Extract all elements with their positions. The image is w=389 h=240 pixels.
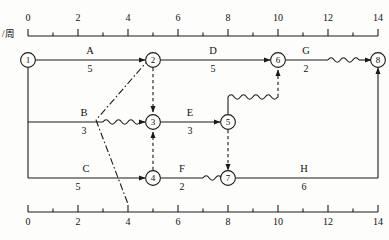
float-wavy-5-6: [228, 95, 278, 99]
activity-duration-E: 3: [188, 125, 193, 136]
activity-duration-D: 5: [211, 63, 216, 74]
top-axis-tick-2: 2: [76, 12, 81, 23]
activity-duration-F: 2: [180, 181, 185, 192]
activity-arrow-B: [28, 120, 145, 124]
activity-label-H: H: [300, 163, 308, 174]
critical-path-marker: [96, 58, 150, 204]
bottom-axis-tick-4: 4: [126, 216, 131, 227]
top-axis-tick-0: 0: [26, 12, 31, 23]
node-label-2: 2: [151, 55, 156, 65]
float-wavy-B: [103, 120, 140, 124]
activity-label-F: F: [179, 163, 185, 174]
bottom-axis-tick-2: 2: [76, 216, 81, 227]
top-axis-tick-8: 8: [226, 12, 231, 23]
top-axis-tick-4: 4: [126, 12, 131, 23]
node-label-7: 7: [226, 173, 231, 183]
node-circles: [21, 53, 386, 186]
node-label-6: 6: [276, 55, 281, 65]
activity-duration-B: 3: [82, 125, 87, 136]
bottom-axis-tick-8: 8: [226, 216, 231, 227]
activity-arrow-G: [286, 58, 371, 62]
axis-unit-label: /周: [2, 26, 15, 40]
activity-duration-H: 6: [302, 181, 307, 192]
node-label-8: 8: [376, 55, 381, 65]
bottom-axis-tick-0: 0: [26, 216, 31, 227]
float-wavy-F: [203, 176, 222, 180]
activity-duration-G: 2: [304, 63, 309, 74]
float-wavy-G: [328, 58, 359, 62]
network-diagram-svg: [0, 0, 389, 240]
top-axis-tick-14: 14: [373, 12, 383, 23]
node-label-1: 1: [26, 55, 31, 65]
bottom-axis-tick-10: 10: [273, 216, 283, 227]
bottom-axis-tick-14: 14: [373, 216, 383, 227]
activity-arrow-H: [236, 68, 378, 178]
activity-arrow-F: [161, 176, 222, 180]
activity-duration-A: 5: [88, 63, 93, 74]
node-label-4: 4: [151, 173, 156, 183]
activity-label-G: G: [302, 45, 310, 56]
activity-duration-C: 5: [76, 181, 81, 192]
node-label-3: 3: [151, 117, 156, 127]
activity-label-C: C: [82, 163, 89, 174]
activity-label-B: B: [80, 107, 87, 118]
dummy-arrow-5-6: [228, 70, 278, 114]
top-axis-tick-12: 12: [323, 12, 333, 23]
top-axis-tick-10: 10: [273, 12, 283, 23]
activity-label-D: D: [209, 45, 217, 56]
top-axis: [28, 29, 378, 36]
activity-label-A: A: [86, 45, 94, 56]
network-diagram-canvas: /周 0 2 4 6 8 10 12 14 0 2 4 6 8 10 12 14…: [0, 0, 389, 240]
activity-label-E: E: [187, 107, 193, 118]
node-label-5: 5: [226, 117, 231, 127]
top-axis-tick-6: 6: [176, 12, 181, 23]
bottom-axis-tick-6: 6: [176, 216, 181, 227]
bottom-axis-tick-12: 12: [323, 216, 333, 227]
bottom-axis: [28, 205, 378, 212]
